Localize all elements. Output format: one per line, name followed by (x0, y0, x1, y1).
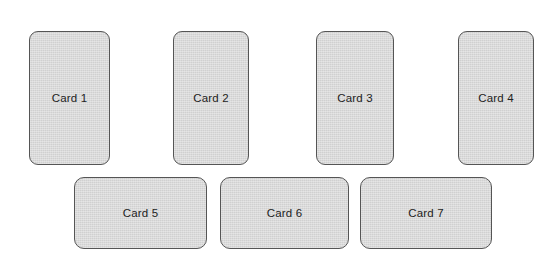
card-5[interactable]: Card 5 (74, 177, 207, 249)
card-3[interactable]: Card 3 (316, 31, 394, 165)
card-1-label: Card 1 (52, 92, 88, 104)
card-7-label: Card 7 (408, 207, 444, 219)
card-4-label: Card 4 (478, 92, 514, 104)
card-layout-canvas: Card 1 Card 2 Card 3 Card 4 Card 5 Card … (0, 0, 552, 274)
card-1[interactable]: Card 1 (29, 31, 110, 165)
card-4[interactable]: Card 4 (458, 31, 534, 165)
card-6-label: Card 6 (267, 207, 303, 219)
card-2[interactable]: Card 2 (173, 31, 249, 165)
card-5-label: Card 5 (123, 207, 159, 219)
card-7[interactable]: Card 7 (360, 177, 492, 249)
card-3-label: Card 3 (337, 92, 373, 104)
card-2-label: Card 2 (193, 92, 229, 104)
card-6[interactable]: Card 6 (220, 177, 349, 249)
